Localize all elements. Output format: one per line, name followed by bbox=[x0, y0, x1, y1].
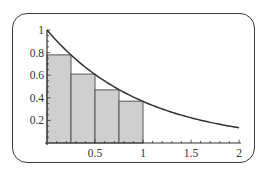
bar bbox=[47, 55, 71, 143]
y-tick-label: 1 bbox=[38, 24, 44, 36]
x-tick-label: 2 bbox=[236, 147, 242, 159]
y-tick-label: 0.8 bbox=[30, 47, 45, 59]
x-tick-label: 0.5 bbox=[88, 147, 103, 159]
x-tick-label: 1.5 bbox=[184, 147, 199, 159]
riemann-sum-chart: 0.511.520.20.40.60.81 bbox=[0, 0, 266, 173]
y-tick-label: 0.6 bbox=[30, 69, 45, 81]
y-tick-label: 0.2 bbox=[30, 114, 45, 126]
y-tick-label: 0.4 bbox=[30, 92, 45, 104]
bar bbox=[119, 101, 143, 143]
bar bbox=[71, 74, 95, 143]
x-tick-label: 1 bbox=[140, 147, 146, 159]
bars bbox=[47, 55, 143, 143]
bar bbox=[95, 90, 119, 143]
